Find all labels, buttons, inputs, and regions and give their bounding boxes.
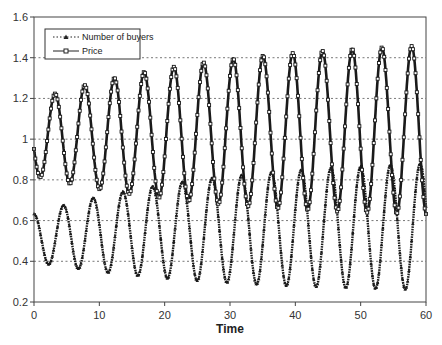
square-marker bbox=[234, 63, 237, 66]
square-marker bbox=[401, 158, 404, 161]
square-marker bbox=[243, 182, 246, 185]
square-marker bbox=[66, 179, 69, 182]
square-marker bbox=[57, 105, 60, 108]
square-marker bbox=[226, 107, 229, 110]
square-marker bbox=[129, 190, 132, 193]
square-marker bbox=[295, 77, 298, 80]
square-marker bbox=[81, 90, 84, 93]
square-marker bbox=[225, 127, 228, 130]
square-marker bbox=[90, 128, 93, 131]
square-marker bbox=[316, 89, 319, 92]
square-marker bbox=[40, 173, 43, 176]
square-marker bbox=[375, 97, 378, 100]
square-marker bbox=[229, 74, 232, 77]
square-marker bbox=[95, 178, 98, 181]
square-marker bbox=[124, 174, 127, 177]
square-marker bbox=[279, 191, 282, 194]
square-marker bbox=[357, 103, 360, 106]
square-marker bbox=[133, 158, 136, 161]
square-marker bbox=[272, 171, 275, 174]
square-marker bbox=[192, 168, 195, 171]
square-marker bbox=[155, 190, 158, 193]
square-marker bbox=[131, 183, 134, 186]
square-marker bbox=[48, 117, 51, 120]
square-marker bbox=[304, 203, 307, 206]
square-marker bbox=[212, 161, 215, 164]
square-marker bbox=[289, 63, 292, 66]
square-marker bbox=[205, 74, 208, 77]
square-marker bbox=[63, 151, 66, 154]
y-tick-label: 0.2 bbox=[13, 296, 28, 308]
square-marker bbox=[164, 137, 167, 140]
square-marker bbox=[341, 168, 344, 171]
square-marker bbox=[266, 91, 269, 94]
square-marker bbox=[414, 72, 417, 75]
square-marker bbox=[371, 163, 374, 166]
square-marker-icon bbox=[64, 49, 68, 53]
square-marker bbox=[185, 194, 188, 197]
square-marker bbox=[42, 168, 45, 171]
square-marker bbox=[321, 50, 324, 53]
square-marker bbox=[46, 140, 49, 143]
square-marker bbox=[115, 81, 118, 84]
square-marker bbox=[167, 102, 170, 105]
square-marker bbox=[257, 83, 260, 86]
x-tick-label: 60 bbox=[420, 309, 432, 321]
square-marker bbox=[269, 131, 272, 134]
square-marker bbox=[49, 107, 52, 110]
square-marker bbox=[419, 158, 422, 161]
legend: Number of buyers Price bbox=[45, 29, 154, 59]
square-marker bbox=[379, 51, 382, 54]
square-marker bbox=[244, 195, 247, 198]
square-marker bbox=[404, 113, 407, 116]
square-marker bbox=[362, 186, 365, 189]
square-marker bbox=[415, 91, 418, 94]
square-marker bbox=[277, 206, 280, 209]
square-marker bbox=[236, 89, 239, 92]
square-marker bbox=[376, 77, 379, 80]
square-marker bbox=[209, 122, 212, 125]
square-marker bbox=[253, 142, 256, 145]
square-marker bbox=[330, 163, 333, 166]
square-marker bbox=[181, 155, 184, 158]
square-marker bbox=[346, 83, 349, 86]
square-marker bbox=[281, 176, 284, 179]
square-marker bbox=[219, 193, 222, 196]
square-marker bbox=[296, 94, 299, 97]
square-marker bbox=[73, 161, 76, 164]
y-tick-label: 1.2 bbox=[13, 92, 28, 104]
square-marker bbox=[206, 87, 209, 90]
square-marker bbox=[343, 125, 346, 128]
square-marker bbox=[158, 196, 161, 199]
square-marker bbox=[91, 142, 94, 145]
x-tick-label: 50 bbox=[355, 309, 367, 321]
square-marker bbox=[150, 133, 153, 136]
square-marker bbox=[298, 115, 301, 118]
square-marker bbox=[195, 132, 198, 135]
square-marker bbox=[286, 95, 289, 98]
square-marker bbox=[366, 211, 369, 214]
square-marker bbox=[47, 128, 50, 131]
square-marker bbox=[214, 190, 217, 193]
square-marker bbox=[338, 199, 341, 202]
square-marker bbox=[174, 68, 177, 71]
square-marker bbox=[197, 96, 200, 99]
x-tick-label: 30 bbox=[224, 309, 236, 321]
square-marker bbox=[86, 93, 89, 96]
square-marker bbox=[329, 142, 332, 145]
square-marker bbox=[381, 48, 384, 51]
square-marker bbox=[200, 69, 203, 72]
square-marker bbox=[282, 157, 285, 160]
square-marker bbox=[208, 104, 211, 107]
square-marker bbox=[140, 83, 143, 86]
square-marker bbox=[235, 74, 238, 77]
square-marker bbox=[252, 161, 255, 164]
square-marker bbox=[242, 166, 245, 169]
square-marker bbox=[392, 191, 395, 194]
square-marker bbox=[76, 136, 79, 139]
square-marker bbox=[396, 212, 399, 215]
square-marker bbox=[319, 59, 322, 62]
square-marker bbox=[221, 181, 224, 184]
square-marker bbox=[198, 81, 201, 84]
square-marker bbox=[393, 204, 396, 207]
